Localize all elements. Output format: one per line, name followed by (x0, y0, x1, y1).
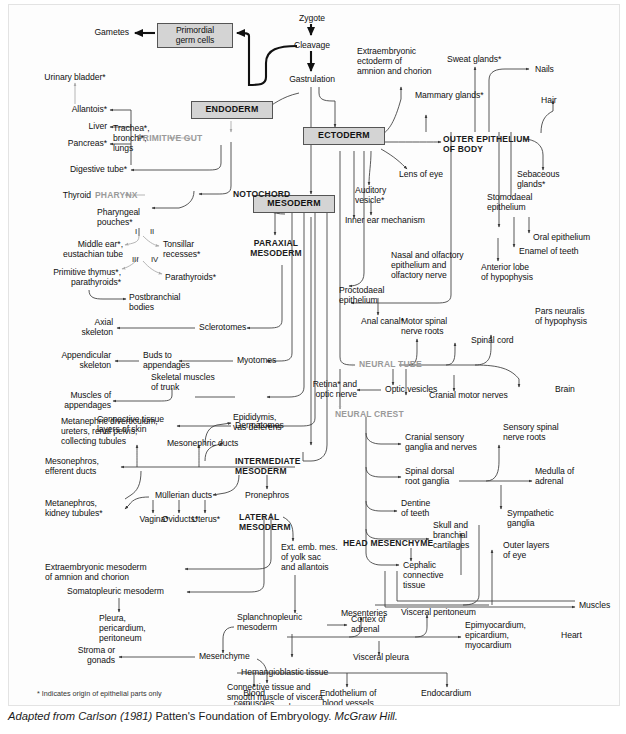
node-muscles-of-appendages: Muscles of appendages (19, 391, 111, 411)
node-neural-tube: NEURAL TUBE (359, 360, 422, 370)
node-cranial-sensory-ganglia: Cranial sensory ganglia and nerves (405, 433, 477, 453)
node-sclerotomes: Sclerotomes (199, 323, 246, 333)
node-hemangioblastic-tissue: Hemangioblastic tissue (241, 668, 328, 678)
node-metanephros: Metanephros, kidney tubules* (45, 499, 103, 519)
node-endocardium: Endocardium (421, 689, 471, 699)
node-skull-branchial-cartilages: Skull and branchial cartilages (433, 521, 469, 550)
node-outer-layers-of-eye: Outer layers of eye (503, 541, 549, 561)
node-auditory-vesicle: Auditory vesicle* (355, 186, 386, 206)
node-spinal-cord: Spinal cord (471, 336, 513, 346)
node-myotomes: Myotomes (237, 356, 276, 366)
node-ext-emb-mes: Ext. emb. mes. of yolk sac and allantois (281, 543, 338, 572)
node-pars-neuralis: Pars neuralis of hypophysis (535, 307, 587, 327)
node-sensory-spinal-nerve-roots: Sensory spinal nerve roots (503, 423, 559, 443)
node-pronephros: Pronephros (245, 491, 289, 501)
node-stroma-or-gonads: Stroma or gonads (33, 646, 115, 666)
node-visceral-pleura: Visceral pleura (353, 653, 409, 663)
figure-caption: Adapted from Carlson (1981) Patten's Fou… (8, 710, 618, 722)
node-primitive-thymus: Primitive thymus*, parathyroids* (15, 268, 121, 288)
node-buds-to-appendages: Buds to appendages (143, 351, 190, 371)
node-proctodaeal-epithelium: Proctodaeal epithelium (339, 286, 384, 306)
node-appendicular-skeleton: Appendicular skeleton (23, 351, 111, 371)
embryology-flowchart-figure: Zygote Cleavage Gastrulation Primordial … (8, 4, 620, 706)
node-mesonephric-ducts: Mesonephric ducts (167, 439, 238, 449)
node-zygote: Zygote (291, 14, 333, 24)
node-oral-epithelium: Oral epithelium (533, 233, 590, 243)
node-pouch-1: I (135, 227, 137, 237)
node-sympathetic-ganglia: Sympathetic ganglia (507, 509, 554, 529)
node-gastrulation: Gastrulation (281, 75, 343, 85)
node-mesonephros: Mesonephros, efferent ducts (45, 457, 99, 477)
node-cranial-motor-nerves: Cranial motor nerves (429, 391, 508, 401)
node-nasal-olfactory: Nasal and olfactory epithelium and olfac… (391, 251, 464, 280)
node-notochord: NOTOCHORD (233, 190, 290, 200)
node-cleavage: Cleavage (287, 41, 337, 51)
node-medulla-of-adrenal: Medulla of adrenal (535, 467, 574, 487)
node-digestive-tube: Digestive tube* (31, 165, 127, 175)
node-dentine-of-teeth: Dentine of teeth (401, 499, 430, 519)
node-hair: Hair (541, 96, 557, 106)
node-endothelium-blood-vessels: Endothelium of blood vessels (311, 689, 385, 706)
node-nails: Nails (535, 65, 554, 75)
node-skeletal-muscles-trunk: Skeletal muscles of trunk (151, 373, 215, 393)
node-neural-crest: NEURAL CREST (335, 410, 404, 420)
box-endoderm: ENDODERM (191, 101, 273, 119)
node-paraxial-mesoderm: PARAXIAL MESODERM (241, 239, 311, 258)
node-mesenchyme: Mesenchyme (199, 652, 250, 662)
node-sweat-glands: Sweat glands* (447, 55, 501, 65)
node-pancreas: Pancreas* (39, 139, 107, 149)
node-brain: Brain (555, 385, 575, 395)
node-epididymis-vas-deferens: Epididymis, vas deferens (233, 413, 282, 433)
node-pleura-pericardium-peritoneum: Pleura, pericardium, peritoneum (99, 614, 146, 643)
node-mammary-glands: Mammary glands* (415, 91, 484, 101)
node-epimyocardium: Epimyocardium, epicardium, myocardium (465, 621, 526, 650)
node-visceral-peritoneum: Visceral peritoneum (401, 608, 476, 618)
node-metanephric-diverticulum: Metanephric diverticulum, ureters, renal… (61, 417, 158, 446)
node-muscles: Muscles (579, 601, 610, 611)
node-lateral-mesoderm: LATERAL MESODERM (239, 513, 291, 532)
node-middle-ear: Middle ear*, eustachian tube (27, 240, 123, 260)
caption-book: Patten's Foundation of Embryology. (152, 710, 334, 722)
node-urinary-bladder: Urinary bladder* (35, 73, 115, 83)
node-head-mesenchyme: HEAD MESENCHYME (343, 539, 433, 549)
node-pouch-3: III (132, 255, 138, 265)
node-splanchnopleuric-mesoderm: Splanchnopleuric mesoderm (237, 613, 302, 633)
node-anal-canal: Anal canal* (361, 317, 404, 327)
node-parathyroids: Parathyroids* (165, 273, 216, 283)
node-extraembryonic-mesoderm: Extraembryonic mesoderm of amnion and ch… (45, 563, 147, 583)
node-thyroid: Thyroid (43, 191, 91, 201)
node-tonsillar-recesses: Tonsillar recesses* (163, 240, 200, 260)
node-sebaceous-glands: Sebaceous glands* (517, 170, 560, 190)
node-postbranchial-bodies: Postbranchial bodies (129, 293, 180, 313)
node-axial-skeleton: Axial skeleton (35, 318, 113, 338)
node-liver: Liver (39, 122, 107, 132)
node-pouch-4: IV (151, 255, 158, 265)
node-anterior-lobe-hypophysis: Anterior lobe of hypophysis (481, 263, 533, 283)
node-retina-optic-nerve: Retina* and optic nerve (277, 380, 357, 400)
node-pharyngeal-pouches: Pharyngeal pouches* (97, 208, 140, 228)
node-mesenteries: Mesenteries (341, 609, 387, 619)
node-blood-corpuscles: Blood corpuscles (223, 689, 285, 706)
node-uterus: Uterus* (187, 515, 225, 525)
node-motor-spinal-nerve-roots: Motor spinal nerve roots (401, 317, 447, 337)
node-lens-of-eye: Lens of eye (399, 170, 443, 180)
node-stomodaeal-epithelium: Stomodaeal epithelium (487, 193, 532, 213)
node-extraembryonic-ectoderm: Extraembryonic ectoderm of amnion and ch… (357, 47, 432, 76)
node-allantois: Allantois* (39, 105, 107, 115)
caption-source: Adapted from Carlson (1981) (8, 710, 152, 722)
node-heart: Heart (561, 631, 582, 641)
node-outer-epithelium-of-body: OUTER EPITHELIUM OF BODY (443, 135, 530, 154)
box-ectoderm: ECTODERM (303, 127, 385, 145)
caption-publisher: McGraw Hill. (335, 710, 398, 722)
node-spinal-dorsal-root-ganglia: Spinal dorsal root ganglia (405, 467, 454, 487)
node-intermediate-mesoderm: INTERMEDIATE MESODERM (235, 457, 301, 476)
node-enamel-of-teeth: Enamel of teeth (519, 247, 578, 257)
node-cephalic-connective-tissue: Cephalic connective tissue (403, 561, 444, 590)
node-pouch-2: II (150, 227, 154, 237)
node-primordial-germ-cells: Primordial germ cells (157, 23, 233, 48)
node-inner-ear-mechanism: Inner ear mechanism (345, 216, 425, 226)
node-trachea-bronchi-lungs: Trachea*, bronchi*, lungs (113, 124, 150, 153)
figure-footnote: * Indicates origin of epithelial parts o… (37, 689, 162, 698)
node-somatopleuric-mesoderm: Somatopleuric mesoderm (67, 587, 164, 597)
node-mullerian-ducts: Müllerian ducts (155, 491, 212, 501)
